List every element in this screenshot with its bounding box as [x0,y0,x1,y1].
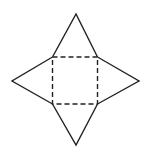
triangle-face-right [98,57,140,104]
pyramid-net-svg [0,0,146,156]
pyramid-net-diagram [0,0,146,156]
base-square-dashed [53,57,98,104]
triangle-face-left [12,57,53,104]
triangle-face-top [53,14,98,57]
triangle-face-bottom [53,104,98,145]
